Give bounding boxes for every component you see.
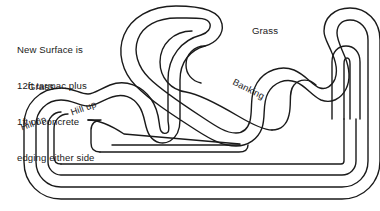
surface-note-line-1: New Surface is (17, 44, 95, 56)
upper-hairpin-inner-circle (186, 46, 205, 83)
banking-inner-edge (272, 80, 316, 130)
inner-right-return (61, 119, 344, 164)
right-hairpin-inner (332, 46, 360, 119)
grass-label-left: Grass (28, 81, 54, 93)
hairpin-infield-loop (160, 31, 272, 130)
infield-wedge-lower (100, 145, 248, 152)
circuit-map: New Surface is 12ft tarmac plus 1ft of c… (0, 0, 380, 211)
surface-note-line-4: edging either side (17, 152, 95, 164)
infield-wedge-upper (88, 120, 240, 144)
grass-label-right: Grass (252, 25, 278, 37)
